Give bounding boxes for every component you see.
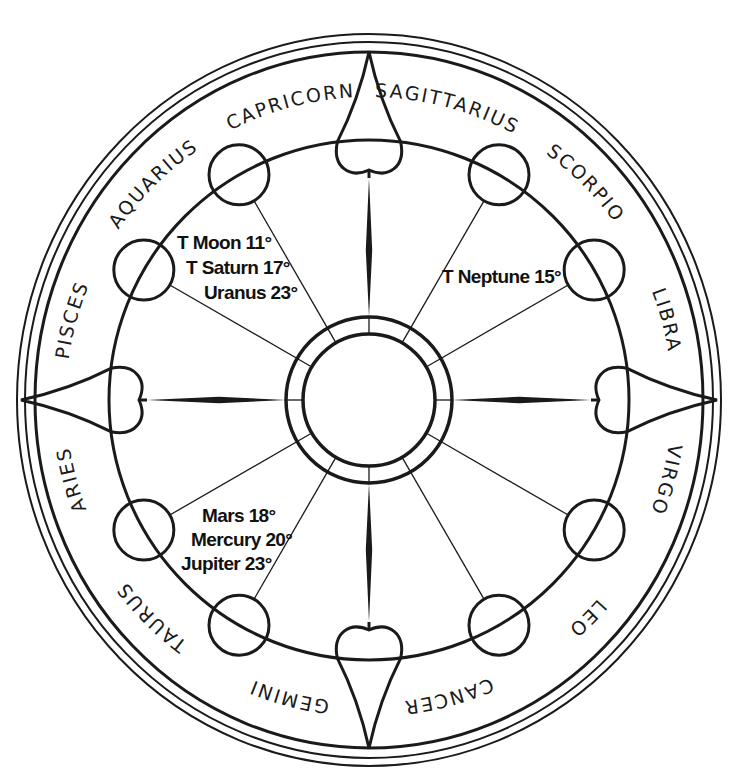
compass-points [21,52,717,748]
center-outer-ring [286,317,452,483]
planet-label: Mars 18° [202,505,276,526]
sign-label-pisces: PISCES [51,278,93,361]
axis-line [366,483,372,622]
planet-label: T Neptune 15° [442,266,561,287]
compass-point-teardrop [21,367,142,432]
spoke-line [426,433,568,515]
planet-label: T Moon 11° [177,232,272,253]
sign-label-leo: LEO [565,596,612,643]
sign-label-gemini: GEMINI [245,676,330,718]
axis-line [452,397,591,403]
axis-line [147,397,286,403]
sign-label-sagittarius: SAGITTARIUS [375,79,524,138]
planet-label: Mercury 20° [191,529,292,550]
compass-point-teardrop [336,52,401,173]
sign-label-capricorn: CAPRICORN [223,79,356,134]
compass-point-teardrop [336,627,401,748]
zodiac-wheel-diagram: SAGITTARIUSSCORPIOLIBRAVIRGOLEOCANCERGEM… [0,0,738,781]
planet-label: Jupiter 23° [181,553,272,574]
sign-label-aquarius: AQUARIUS [104,134,202,232]
sign-label-aries: ARIES [52,445,91,516]
sign-label-virgo: VIRGO [647,443,687,519]
spoke-line [426,285,568,367]
sign-label-libra: LIBRA [648,285,686,354]
spoke-line [402,457,484,599]
sign-label-cancer: CANCER [402,674,497,719]
axis-line [366,178,372,317]
center-inner-ring [303,334,435,466]
planet-label: Uranus 23° [204,282,297,303]
planet-label: T Saturn 17° [186,257,290,278]
outer-rings [17,34,721,766]
sign-label-taurus: TAURUS [111,578,191,658]
spoke-line [170,433,312,515]
compass-point-teardrop [596,367,717,432]
